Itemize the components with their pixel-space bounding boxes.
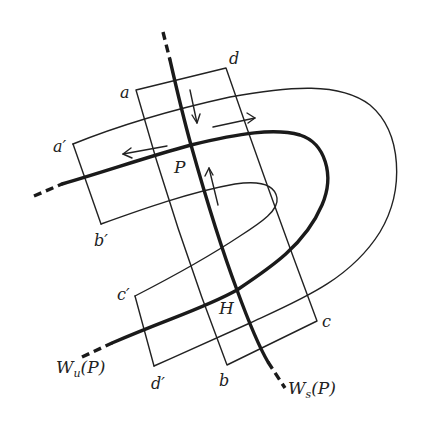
label-P: P	[173, 157, 186, 177]
horseshoe-diagram: a d c b a′ b′ c′ d′ P H Wu(P) Ws(P)	[0, 0, 426, 423]
label-b-prime: b′	[94, 231, 108, 250]
label-c: c	[322, 312, 331, 331]
label-a: a	[120, 83, 130, 102]
label-H: H	[218, 298, 235, 318]
label-c-prime: c′	[117, 285, 130, 304]
stable-manifold-ws-dashed-bottom	[268, 362, 285, 388]
horseshoe-outer-boundary	[73, 88, 397, 366]
diagram-canvas: a d c b a′ b′ c′ d′ P H Wu(P) Ws(P)	[0, 0, 426, 423]
unstable-manifold-wu-dashed-left	[34, 184, 62, 196]
label-a-prime: a′	[53, 137, 67, 156]
expand-arrow-left-icon	[123, 146, 167, 158]
stable-manifold-ws-dashed-top	[163, 32, 170, 60]
edge-a-prime-b-prime	[73, 144, 101, 224]
label-b: b	[219, 371, 229, 390]
label-Ws: Ws(P)	[288, 378, 336, 401]
label-d-prime: d′	[151, 374, 165, 393]
expand-arrow-right-icon	[213, 113, 255, 127]
label-Wu: Wu(P)	[56, 357, 105, 380]
unstable-manifold-wu-dashed-bottom	[82, 343, 112, 357]
label-d: d	[229, 49, 239, 68]
